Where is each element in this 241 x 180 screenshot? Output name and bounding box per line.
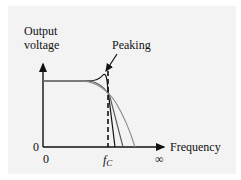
infinity-label: ∞ — [155, 152, 164, 166]
y-origin-label: 0 — [33, 140, 39, 154]
peaking-curve — [43, 74, 115, 147]
cutoff-label: fC — [103, 153, 113, 168]
frequency-response-diagram: Output voltage Peaking 0 0 fC ∞ Frequenc… — [0, 0, 241, 180]
peaking-label: Peaking — [112, 38, 151, 52]
x-origin-label: 0 — [43, 152, 49, 166]
x-axis-label: Frequency — [170, 140, 221, 154]
y-axis-label-line1: Output — [24, 24, 58, 38]
y-axis-label-line2: voltage — [24, 38, 59, 52]
peaking-arrow — [106, 54, 117, 71]
response-curve-3 — [43, 81, 135, 147]
